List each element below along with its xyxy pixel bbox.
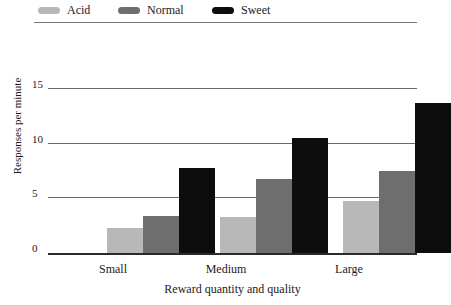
y-tick-label-0: 0	[32, 243, 44, 254]
legend-separator-rule	[34, 22, 417, 23]
bar-medium-sweet	[292, 138, 328, 253]
y-tick-label-10: 10	[32, 134, 44, 145]
gridline-5	[48, 197, 417, 198]
bar-small-normal	[143, 216, 179, 253]
x-tick-label-large: Large	[309, 262, 389, 276]
legend-label-acid: Acid	[67, 3, 90, 17]
legend-item-normal: Normal	[118, 2, 184, 18]
gridline-10	[48, 143, 417, 144]
bar-large-acid	[343, 201, 379, 254]
x-axis-baseline	[48, 253, 417, 255]
bar-medium-acid	[220, 217, 256, 253]
x-tick-label-medium: Medium	[186, 262, 266, 276]
x-axis-label: Reward quantity and quality	[48, 282, 417, 296]
y-axis-label: Responses per minute	[11, 46, 23, 206]
y-tick-label-15: 15	[32, 79, 44, 90]
legend-item-sweet: Sweet	[212, 2, 270, 18]
x-tick-label-small: Small	[73, 262, 153, 276]
bar-small-acid	[107, 228, 143, 253]
legend-swatch-normal	[118, 7, 140, 14]
bar-large-sweet	[415, 103, 451, 253]
legend-item-acid: Acid	[38, 2, 90, 18]
legend-label-normal: Normal	[147, 3, 184, 17]
y-tick-label-5: 5	[32, 188, 44, 199]
gridline-15	[48, 88, 417, 89]
bar-medium-normal	[256, 179, 292, 253]
plot-area	[48, 78, 417, 253]
bar-small-sweet	[179, 168, 215, 253]
legend-swatch-sweet	[212, 7, 234, 14]
legend-label-sweet: Sweet	[241, 3, 270, 17]
chart-legend: Acid Normal Sweet	[0, 0, 428, 22]
bar-large-normal	[379, 171, 415, 253]
legend-swatch-acid	[38, 7, 60, 14]
